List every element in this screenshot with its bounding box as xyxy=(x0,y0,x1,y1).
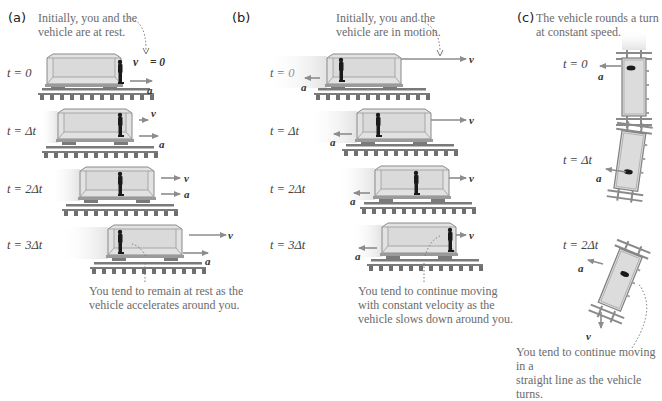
vehicle-b-t0 xyxy=(314,54,430,100)
vehicle-b-t2 xyxy=(360,166,476,214)
panel-b-graphics: v⃗ a⃗ v⃗ a⃗ v⃗ a⃗ xyxy=(265,20,483,282)
panel-a-graphics: a⃗ v⃗ = 0 v⃗ a⃗ v⃗ a⃗ xyxy=(38,18,241,282)
svg-text:a⃗: a⃗ xyxy=(578,262,592,274)
vehicle-a-t1 xyxy=(42,109,158,158)
vehicle-c-t0 xyxy=(616,50,652,128)
vehicle-b-t1 xyxy=(342,109,458,156)
svg-text:v⃗: v⃗ xyxy=(469,172,482,184)
svg-text:a⃗: a⃗ xyxy=(355,250,369,262)
svg-text:v⃗: v⃗ xyxy=(469,114,482,126)
svg-text:v⃗: v⃗ xyxy=(151,107,164,119)
vehicle-b-t3 xyxy=(367,223,483,271)
svg-text:a⃗: a⃗ xyxy=(330,136,344,148)
svg-text:v⃗: v⃗ xyxy=(184,172,197,184)
svg-text:a⃗: a⃗ xyxy=(598,70,612,82)
panel-c-graphics: a⃗ a⃗ xyxy=(578,28,653,348)
svg-text:a⃗: a⃗ xyxy=(301,81,315,93)
acceleration-label: a⃗ xyxy=(147,84,161,96)
svg-text:a⃗: a⃗ xyxy=(596,172,610,184)
vehicle-c-t2 xyxy=(587,237,651,327)
svg-text:a⃗: a⃗ xyxy=(350,195,364,207)
vehicle-c-t1 xyxy=(606,120,653,204)
svg-text:v⃗: v⃗ xyxy=(228,229,241,241)
svg-text:v⃗: v⃗ xyxy=(469,229,482,241)
svg-text:a⃗: a⃗ xyxy=(205,255,219,267)
svg-text:v⃗: v⃗ xyxy=(469,53,482,65)
svg-text:a⃗: a⃗ xyxy=(159,138,173,150)
svg-text:a⃗: a⃗ xyxy=(184,188,198,200)
svg-text:v⃗: v⃗ xyxy=(586,330,599,342)
caption-line: straight line as the vehicle turns. xyxy=(516,373,662,401)
velocity-zero-label: v⃗ = 0 xyxy=(133,56,165,68)
